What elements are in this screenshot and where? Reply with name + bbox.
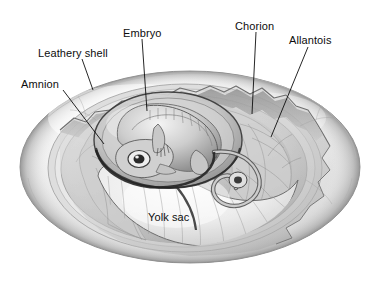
label-allantois: Allantois <box>289 35 331 46</box>
label-leathery-shell: Leathery shell <box>38 48 108 59</box>
leader-leathery-shell <box>82 59 93 90</box>
label-embryo: Embryo <box>123 28 162 39</box>
label-yolk-sac: Yolk sac <box>148 212 189 223</box>
label-chorion: Chorion <box>235 21 274 32</box>
label-amnion: Amnion <box>21 79 59 90</box>
